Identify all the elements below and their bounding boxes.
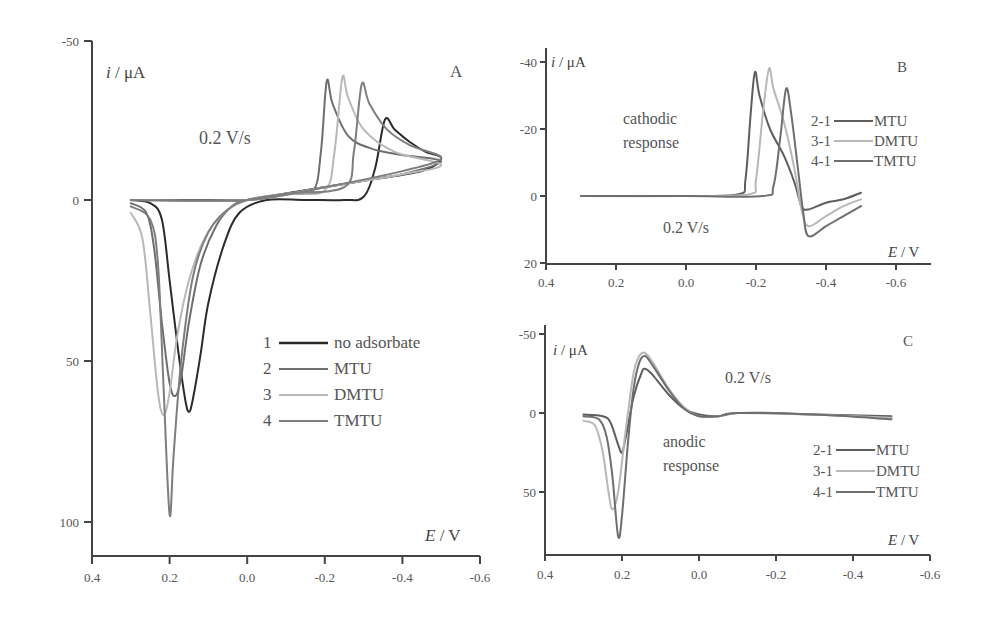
svg-text:0.0: 0.0 [691, 567, 707, 582]
panel-c-x-label: E / V [887, 532, 920, 548]
svg-text:-50: -50 [519, 327, 536, 342]
legend-item: 3 DMTU [263, 385, 384, 404]
series-curve [131, 83, 441, 517]
panel-a-ytick: -50 [62, 34, 79, 49]
series-curve [131, 76, 441, 415]
svg-text:50: 50 [523, 485, 536, 500]
svg-text:3: 3 [263, 385, 272, 404]
panel-b-y-ticks: -40 -20 0 20 [520, 55, 546, 271]
panel-b-x-label: E / V [887, 244, 920, 260]
svg-text:MTU: MTU [334, 359, 372, 378]
svg-text:no adsorbate: no adsorbate [334, 333, 420, 352]
panel-b-annotation-line2: response [623, 134, 679, 152]
svg-text:0.4: 0.4 [537, 567, 554, 582]
panel-c-annotation-line2: response [663, 457, 719, 475]
legend-item: 2-1 MTU [813, 442, 910, 458]
panel-b-y-label: i / μA [551, 54, 586, 70]
panel-c-letter: C [903, 333, 913, 349]
panel-c-annotation-line1: anodic [663, 433, 706, 450]
panel-b-letter: B [897, 59, 907, 75]
panel-a-xtick: -0.6 [470, 570, 491, 585]
panel-a-ytick: 100 [60, 515, 80, 530]
svg-text:1: 1 [263, 333, 272, 352]
legend-item: 1 no adsorbate [263, 333, 420, 352]
panel-b-legend: 2-1 MTU 3-1 DMTU 4-1 TMTU [811, 113, 918, 169]
svg-text:TMTU: TMTU [876, 484, 919, 500]
svg-text:4-1: 4-1 [811, 153, 831, 169]
svg-text:DMTU: DMTU [334, 385, 384, 404]
svg-text:-0.6: -0.6 [886, 275, 907, 290]
panel-a-xtick: -0.2 [315, 570, 336, 585]
panel-a-scan-rate: 0.2 V/s [199, 128, 251, 148]
svg-text:-0.2: -0.2 [746, 275, 767, 290]
svg-text:2-1: 2-1 [811, 113, 831, 129]
svg-text:0: 0 [530, 406, 537, 421]
panel-c-legend: 2-1 MTU 3-1 DMTU 4-1 TMTU [813, 442, 920, 500]
svg-text:-0.2: -0.2 [766, 567, 787, 582]
panel-c-y-ticks: -50 0 50 [519, 327, 545, 500]
legend-item: 4-1 TMTU [811, 153, 917, 169]
series-curve [131, 118, 441, 412]
panel-b: -40 -20 0 20 0.4 0.2 0.0 -0.2 -0.4 -0.6 … [520, 48, 931, 290]
svg-text:-0.6: -0.6 [920, 567, 941, 582]
svg-text:-0.4: -0.4 [816, 275, 837, 290]
svg-text:-0.4: -0.4 [843, 567, 864, 582]
legend-item: 4-1 TMTU [813, 484, 919, 500]
svg-text:0: 0 [531, 189, 538, 204]
legend-item: 2-1 MTU [811, 113, 908, 129]
panel-a-xtick: -0.4 [392, 570, 413, 585]
svg-text:0.0: 0.0 [678, 275, 694, 290]
panel-a-xtick: 0.2 [161, 570, 177, 585]
svg-text:MTU: MTU [874, 113, 908, 129]
svg-text:-20: -20 [520, 122, 537, 137]
legend-item: 2 MTU [263, 359, 372, 378]
svg-text:MTU: MTU [876, 442, 910, 458]
panel-a-xtick: 0.4 [84, 570, 101, 585]
svg-text:TMTU: TMTU [334, 411, 382, 430]
panel-a-curves [131, 76, 441, 517]
panel-a-letter: A [450, 62, 463, 81]
svg-text:2-1: 2-1 [813, 442, 833, 458]
panel-b-scan-rate: 0.2 V/s [663, 219, 709, 236]
panel-a-x-ticks: 0.4 0.2 0.0 -0.2 -0.4 -0.6 [84, 556, 491, 585]
panel-a-ytick: 0 [73, 193, 80, 208]
svg-text:4: 4 [263, 411, 272, 430]
legend-item: 3-1 DMTU [811, 133, 918, 149]
svg-text:DMTU: DMTU [876, 463, 920, 479]
svg-text:3-1: 3-1 [813, 463, 833, 479]
legend-item: 4 TMTU [263, 411, 382, 430]
figure-canvas: -50 0 50 100 0.4 0.2 0.0 -0.2 -0.4 -0.6 … [0, 0, 985, 626]
svg-text:0.2: 0.2 [608, 275, 624, 290]
svg-text:DMTU: DMTU [874, 133, 918, 149]
legend-item: 3-1 DMTU [813, 463, 920, 479]
svg-text:0.2: 0.2 [614, 567, 630, 582]
svg-text:-40: -40 [520, 55, 537, 70]
panel-a: -50 0 50 100 0.4 0.2 0.0 -0.2 -0.4 -0.6 … [60, 34, 491, 585]
panel-a-xtick: 0.0 [239, 570, 255, 585]
panel-b-x-ticks: 0.4 0.2 0.0 -0.2 -0.4 -0.6 [538, 264, 907, 290]
svg-text:4-1: 4-1 [813, 484, 833, 500]
svg-text:TMTU: TMTU [874, 153, 917, 169]
svg-text:3-1: 3-1 [811, 133, 831, 149]
panel-a-x-label: E / V [424, 526, 461, 545]
panel-a-ytick: 50 [66, 354, 79, 369]
svg-text:0.4: 0.4 [538, 275, 555, 290]
panel-a-y-ticks: -50 0 50 100 [60, 34, 93, 530]
svg-text:2: 2 [263, 359, 272, 378]
panel-c-x-ticks: 0.4 0.2 0.0 -0.2 -0.4 -0.6 [537, 555, 941, 582]
panel-a-y-label: i / μA [106, 63, 146, 82]
panel-c-scan-rate: 0.2 V/s [725, 369, 771, 386]
panel-c-y-label: i / μA [553, 342, 588, 358]
panel-c: -50 0 50 0.4 0.2 0.0 -0.2 -0.4 -0.6 i / … [519, 325, 941, 582]
svg-text:20: 20 [524, 256, 537, 271]
panel-a-legend: 1 no adsorbate 2 MTU 3 DMTU 4 TMTU [263, 333, 420, 430]
panel-b-annotation-line1: cathodic [623, 110, 677, 127]
